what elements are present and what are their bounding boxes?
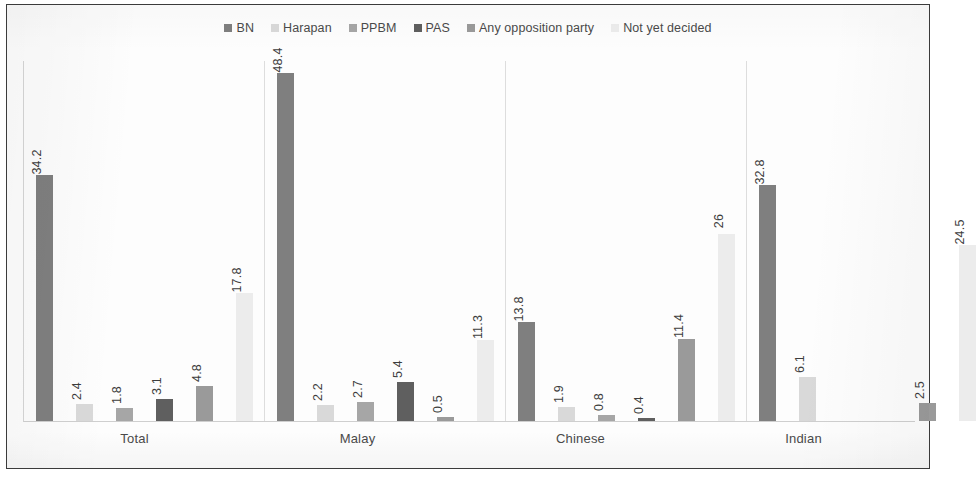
bar-group: 34.22.41.83.14.817.8 xyxy=(24,61,264,421)
bar-slot xyxy=(827,61,867,421)
bar[interactable]: 26 xyxy=(718,234,735,421)
bar-value-label: 24.5 xyxy=(953,219,967,244)
bar-slot: 0.5 xyxy=(425,61,465,421)
bar-value-label: 0.4 xyxy=(632,396,646,414)
bar[interactable]: 4.8 xyxy=(196,386,213,421)
legend-item[interactable]: BN xyxy=(224,21,254,35)
bar-value-label: 1.8 xyxy=(110,386,124,404)
legend-swatch-icon xyxy=(349,24,357,32)
bar-slot: 0.4 xyxy=(626,61,666,421)
bar-value-label: 4.8 xyxy=(190,364,204,382)
legend-swatch-icon xyxy=(467,24,475,32)
legend-item-label: Any opposition party xyxy=(479,21,594,35)
bar-slot: 26 xyxy=(706,61,746,421)
bar-slot: 32.8 xyxy=(747,61,787,421)
bar-value-label: 13.8 xyxy=(512,296,526,321)
legend-item-label: Not yet decided xyxy=(623,21,711,35)
bar[interactable]: 5.4 xyxy=(397,382,414,421)
bar[interactable]: 11.3 xyxy=(477,340,494,421)
bar-slot: 2.4 xyxy=(64,61,104,421)
bar-slot: 1.9 xyxy=(546,61,586,421)
legend-item[interactable]: PAS xyxy=(414,21,450,35)
bar[interactable]: 2.5 xyxy=(919,403,936,421)
bar-slot: 6.1 xyxy=(787,61,827,421)
bar-value-label: 17.8 xyxy=(230,267,244,292)
bar-value-label: 48.4 xyxy=(271,47,285,72)
bar[interactable]: 32.8 xyxy=(759,185,776,421)
bar-value-label: 0.5 xyxy=(431,395,445,413)
category-label: Indian xyxy=(692,426,915,452)
bar[interactable]: 24.5 xyxy=(959,245,976,421)
legend-item-label: BN xyxy=(236,21,254,35)
bar[interactable]: 2.4 xyxy=(76,404,93,421)
bar-slot: 17.8 xyxy=(224,61,264,421)
bar-value-label: 26 xyxy=(712,214,726,228)
bar-slot: 5.4 xyxy=(385,61,425,421)
bar[interactable]: 13.8 xyxy=(518,322,535,421)
bar-slot: 2.5 xyxy=(907,61,947,421)
bar-value-label: 2.2 xyxy=(311,383,325,401)
bar-slot: 11.3 xyxy=(465,61,505,421)
bar[interactable]: 2.7 xyxy=(357,402,374,421)
bar-value-label: 3.1 xyxy=(150,377,164,395)
bar-groups: 34.22.41.83.14.817.848.42.22.75.40.511.3… xyxy=(24,61,915,421)
bar[interactable]: 0.5 xyxy=(437,417,454,421)
legend-swatch-icon xyxy=(611,24,619,32)
bar-slot: 3.1 xyxy=(144,61,184,421)
bar-value-label: 2.4 xyxy=(70,382,84,400)
bar-value-label: 32.8 xyxy=(753,159,767,184)
chart-legend: BNHarapanPPBMPASAny opposition partyNot … xyxy=(7,19,929,37)
legend-item-label: Harapan xyxy=(283,21,332,35)
bar-group: 13.81.90.80.411.426 xyxy=(505,61,746,421)
bar[interactable]: 1.9 xyxy=(558,407,575,421)
bar-slot: 48.4 xyxy=(265,61,305,421)
category-label: Chinese xyxy=(469,426,692,452)
category-axis: TotalMalayChineseIndian xyxy=(23,426,915,452)
bar-slot: 11.4 xyxy=(666,61,706,421)
bar-value-label: 2.7 xyxy=(351,380,365,398)
bar-value-label: 5.4 xyxy=(391,360,405,378)
bar-group: 32.86.12.524.5 xyxy=(746,61,980,421)
bar-slot: 0.8 xyxy=(586,61,626,421)
bar[interactable]: 3.1 xyxy=(156,399,173,421)
bar[interactable]: 6.1 xyxy=(799,377,816,421)
legend-swatch-icon xyxy=(224,24,232,32)
bar[interactable]: 17.8 xyxy=(236,293,253,421)
bar-group: 48.42.22.75.40.511.3 xyxy=(264,61,505,421)
bar-value-label: 2.5 xyxy=(913,381,927,399)
bar[interactable]: 2.2 xyxy=(317,405,334,421)
legend-item[interactable]: PPBM xyxy=(349,21,397,35)
bar-slot: 24.5 xyxy=(947,61,980,421)
bar-slot xyxy=(867,61,907,421)
bar[interactable]: 1.8 xyxy=(116,408,133,421)
legend-item[interactable]: Not yet decided xyxy=(611,21,711,35)
bar-value-label: 11.4 xyxy=(672,314,686,338)
bar-value-label: 11.3 xyxy=(471,315,485,339)
bar[interactable]: 11.4 xyxy=(678,339,695,421)
category-label: Malay xyxy=(246,426,469,452)
bar[interactable]: 0.8 xyxy=(598,415,615,421)
bar-slot: 13.8 xyxy=(506,61,546,421)
chart-plot-area: 34.22.41.83.14.817.848.42.22.75.40.511.3… xyxy=(23,61,915,422)
bar-slot: 2.7 xyxy=(345,61,385,421)
legend-swatch-icon xyxy=(414,24,422,32)
bar-slot: 34.2 xyxy=(24,61,64,421)
bar[interactable]: 48.4 xyxy=(277,73,294,421)
bar[interactable]: 0.4 xyxy=(638,418,655,421)
legend-item[interactable]: Harapan xyxy=(271,21,332,35)
bar-slot: 4.8 xyxy=(184,61,224,421)
bar-value-label: 0.8 xyxy=(592,393,606,411)
chart-figure-frame: BNHarapanPPBMPASAny opposition partyNot … xyxy=(6,4,930,469)
bar-slot: 2.2 xyxy=(305,61,345,421)
bar-value-label: 6.1 xyxy=(793,355,807,373)
legend-item-label: PPBM xyxy=(361,21,397,35)
bar-value-label: 34.2 xyxy=(30,149,44,174)
category-label: Total xyxy=(23,426,246,452)
bar[interactable]: 34.2 xyxy=(36,175,53,421)
legend-item-label: PAS xyxy=(426,21,450,35)
legend-item[interactable]: Any opposition party xyxy=(467,21,594,35)
bar-value-label: 1.9 xyxy=(552,385,566,403)
bar-slot: 1.8 xyxy=(104,61,144,421)
legend-swatch-icon xyxy=(271,24,279,32)
